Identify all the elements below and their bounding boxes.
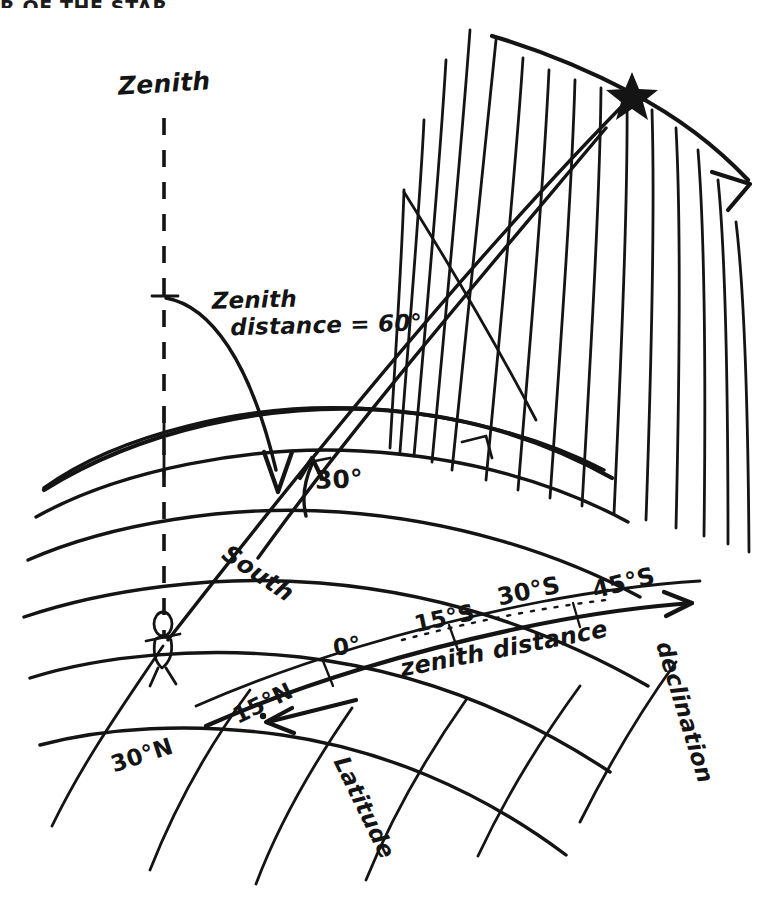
hour-circle [736,222,749,552]
label-zenith: Zenith [117,67,211,101]
label-declination-0: 0° [331,631,362,661]
hour-circle [486,58,523,480]
hour-circle [676,128,679,528]
zenith-distance-line1: Zenith [211,286,297,314]
hour-circle [614,95,627,514]
observer-figure-icon [146,612,180,686]
hour-circle [580,662,676,822]
hatched-hour-circle-band [390,30,750,552]
hour-circle [550,80,575,498]
label-zenith-distance-value: Zenith distance = 60° [211,282,422,341]
hour-circle [698,150,705,536]
zenith-distance-line2: distance = 60° [230,309,422,340]
hour-circle [452,40,496,470]
hour-circle [518,70,549,490]
hour-circle [646,110,653,520]
hour-circle [718,180,728,544]
label-altitude-angle: 30° [315,465,364,495]
hour-circle [414,60,446,456]
secondary-ray [258,128,606,558]
diagram-page: R OF THE STAR [0,0,769,900]
hour-circle [52,646,163,826]
